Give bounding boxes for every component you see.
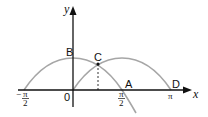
point-a-label: A xyxy=(125,78,133,90)
trig-graph: x y 0 − π 2 π 2 π A B C D xyxy=(0,0,208,117)
y-axis-label: y xyxy=(63,2,70,16)
y-axis-arrow-icon xyxy=(70,6,77,15)
x-axis-arrow-icon xyxy=(183,87,192,94)
tick-pi: π xyxy=(168,91,173,101)
sin-curve xyxy=(73,58,171,90)
tick-pi-half-den: 2 xyxy=(119,98,124,108)
tick-neg-pi-half-sign: − xyxy=(16,89,21,99)
point-b-label: B xyxy=(66,46,73,58)
origin-label: 0 xyxy=(64,91,70,103)
point-c-label: C xyxy=(94,51,102,63)
point-d-label: D xyxy=(172,78,180,90)
x-axis-label: x xyxy=(192,87,199,101)
tick-neg-pi-half-den: 2 xyxy=(23,98,28,108)
